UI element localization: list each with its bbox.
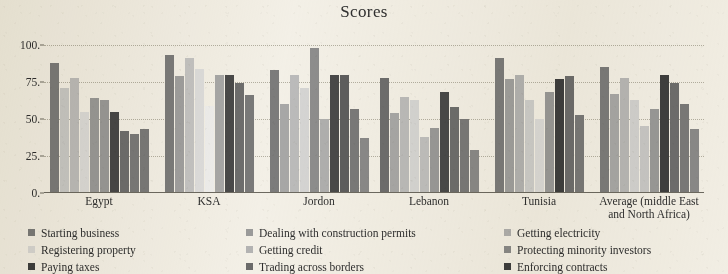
y-axis-tick-label: 0. — [4, 187, 40, 199]
bar — [460, 119, 469, 193]
legend-swatch — [504, 229, 511, 236]
bar — [185, 58, 194, 193]
bar-group: Lebanon — [374, 45, 484, 193]
bar — [420, 137, 429, 193]
bar — [120, 131, 129, 193]
legend-item: Paying taxes — [28, 261, 246, 273]
y-axis-tick-label: 100. — [4, 39, 40, 51]
bar — [90, 98, 99, 193]
legend-item: Protecting minority investors — [504, 244, 728, 256]
legend-swatch — [28, 263, 35, 270]
bar — [495, 58, 504, 193]
legend-swatch — [504, 246, 511, 253]
bar — [100, 100, 109, 193]
bar — [535, 119, 544, 193]
legend-label: Paying taxes — [41, 261, 99, 273]
x-axis-category-label: Tunisia — [484, 195, 594, 208]
bar — [390, 113, 399, 193]
bar — [680, 104, 689, 193]
bar — [290, 75, 299, 193]
bar — [310, 48, 319, 193]
bar-group: Tunisia — [484, 45, 594, 193]
legend-item: Registering property — [28, 244, 246, 256]
bar — [620, 78, 629, 193]
bar — [140, 129, 149, 193]
legend-item: Starting business — [28, 227, 246, 239]
bar — [130, 134, 139, 193]
legend-label: Getting electricity — [517, 227, 600, 239]
legend-label: Starting business — [41, 227, 119, 239]
bar — [205, 106, 214, 193]
bar — [110, 112, 119, 193]
bar — [630, 100, 639, 193]
bar — [60, 88, 69, 193]
bar-group: Average (middle Eastand North Africa) — [594, 45, 704, 193]
bar — [320, 119, 329, 193]
bar — [340, 75, 349, 193]
bar-group: KSA — [154, 45, 264, 193]
legend-swatch — [504, 263, 511, 270]
bar — [650, 109, 659, 193]
legend-item: Trading across borders — [246, 261, 504, 273]
bar — [545, 92, 554, 193]
legend-swatch — [246, 246, 253, 253]
legend-label: Getting credit — [259, 244, 323, 256]
legend-item: Dealing with construction permits — [246, 227, 504, 239]
legend-label: Dealing with construction permits — [259, 227, 416, 239]
bar — [575, 115, 584, 193]
x-axis-category-label: KSA — [154, 195, 264, 208]
bar — [270, 70, 279, 193]
bar — [225, 75, 234, 193]
bar — [450, 107, 459, 193]
bar — [660, 75, 669, 193]
x-axis-category-label: Jordon — [264, 195, 374, 208]
bar-groups: EgyptKSAJordonLebanonTunisiaAverage (mid… — [44, 45, 704, 193]
bar — [360, 138, 369, 193]
bar — [175, 76, 184, 193]
legend-swatch — [246, 229, 253, 236]
bar — [525, 100, 534, 193]
x-axis-category-label: Average (middle Eastand North Africa) — [594, 195, 704, 220]
y-axis-tick-label: 75. — [4, 76, 40, 88]
bar — [555, 79, 564, 193]
bar — [505, 79, 514, 193]
bar — [470, 150, 479, 193]
bar — [280, 104, 289, 193]
legend-swatch — [246, 263, 253, 270]
legend-label: Trading across borders — [259, 261, 364, 273]
plot-area: EgyptKSAJordonLebanonTunisiaAverage (mid… — [44, 45, 704, 193]
legend-item: Getting credit — [246, 244, 504, 256]
x-axis-category-label: Lebanon — [374, 195, 484, 208]
bar — [670, 83, 679, 193]
bar — [50, 63, 59, 193]
bar — [690, 129, 699, 193]
bar — [410, 100, 419, 193]
bar-group: Jordon — [264, 45, 374, 193]
y-axis-tick-label: 25. — [4, 150, 40, 162]
chart-legend: Starting businessDealing with constructi… — [28, 224, 728, 274]
legend-item: Enforcing contracts — [504, 261, 728, 273]
bar — [70, 78, 79, 193]
bar — [600, 67, 609, 193]
bar — [515, 75, 524, 193]
x-axis-line — [44, 192, 704, 193]
y-axis-tick-label: 50. — [4, 113, 40, 125]
legend-swatch — [28, 246, 35, 253]
legend-label: Enforcing contracts — [517, 261, 607, 273]
legend-label: Registering property — [41, 244, 136, 256]
bar — [350, 109, 359, 193]
bar — [80, 112, 89, 193]
bar — [165, 55, 174, 193]
bar — [380, 78, 389, 193]
bar — [235, 83, 244, 193]
bar — [215, 75, 224, 193]
legend-swatch — [28, 229, 35, 236]
x-axis-category-label: Egypt — [44, 195, 154, 208]
bar — [430, 128, 439, 193]
bar — [440, 92, 449, 193]
y-axis: 0.25.50.75.100. — [0, 45, 40, 193]
bar — [195, 69, 204, 193]
bar — [300, 88, 309, 193]
legend-item: Getting electricity — [504, 227, 728, 239]
bar-group: Egypt — [44, 45, 154, 193]
